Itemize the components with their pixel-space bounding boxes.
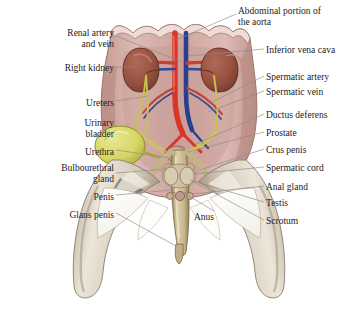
label-ureters: Ureters bbox=[12, 98, 114, 109]
label-spermatic-artery: Spermatic artery bbox=[266, 72, 358, 83]
perineum-cut-right bbox=[138, 200, 168, 240]
label-bulbourethral-gland: Bulbourethral gland bbox=[4, 163, 114, 184]
label-crus-penis: Crus penis bbox=[266, 145, 358, 156]
label-testis: Testis bbox=[266, 198, 358, 209]
label-urinary-bladder: Urinary bladder bbox=[12, 118, 114, 139]
scrotum-group bbox=[162, 164, 196, 201]
glans-penis bbox=[175, 244, 183, 264]
label-ductus-deferens: Ductus deferens bbox=[266, 110, 358, 121]
label-prostate: Prostate bbox=[266, 128, 358, 139]
testis-left bbox=[180, 167, 194, 185]
label-anal-gland: Anal gland bbox=[266, 182, 358, 193]
label-spermatic-vein: Spermatic vein bbox=[266, 87, 358, 98]
label-inferior-vena-cava: Inferior vena cava bbox=[266, 45, 358, 56]
anatomy-figure: Renal artery and veinRight kidneyUreters… bbox=[0, 0, 358, 315]
label-renal-artery-and-vein: Renal artery and vein bbox=[12, 28, 114, 49]
label-abdominal-portion-of-the-aorta: Abdominal portion of the aorta bbox=[238, 6, 356, 27]
label-urethra: Urethra bbox=[12, 147, 114, 158]
testis-right bbox=[164, 167, 178, 185]
anal-gland-right bbox=[167, 193, 174, 200]
label-anus: Anus bbox=[194, 212, 228, 223]
label-penis: Penis bbox=[12, 192, 114, 203]
label-scrotum: Scrotum bbox=[266, 216, 358, 227]
label-spermatic-cord: Spermatic cord bbox=[266, 163, 358, 174]
label-right-kidney: Right kidney bbox=[12, 63, 114, 74]
label-glans-penis: Glans penis bbox=[12, 210, 114, 221]
